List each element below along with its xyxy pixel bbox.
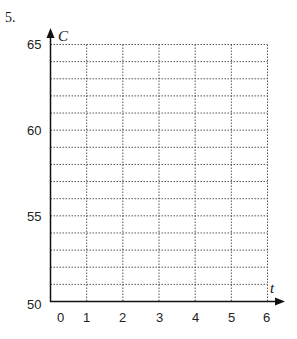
grid-lines: [51, 45, 268, 302]
y-axis-arrow-icon: [47, 28, 55, 38]
x-axis-arrow-icon: [275, 298, 285, 306]
x-tick-4: 4: [192, 310, 199, 325]
x-axis-label: t: [270, 280, 275, 296]
blank-grid-chart: C t 65 60 55 50 0 1 2 3 4 5 6: [0, 0, 297, 339]
x-tick-1: 1: [83, 310, 90, 325]
x-tick-6: 6: [263, 310, 270, 325]
x-tick-0: 0: [57, 310, 64, 325]
y-tick-55: 55: [27, 209, 41, 224]
y-tick-65: 65: [27, 37, 41, 52]
x-tick-5: 5: [228, 310, 235, 325]
x-tick-2: 2: [119, 310, 126, 325]
y-tick-50: 50: [27, 297, 41, 312]
x-tick-3: 3: [156, 310, 163, 325]
y-axis-label: C: [58, 28, 69, 44]
y-tick-60: 60: [27, 123, 41, 138]
